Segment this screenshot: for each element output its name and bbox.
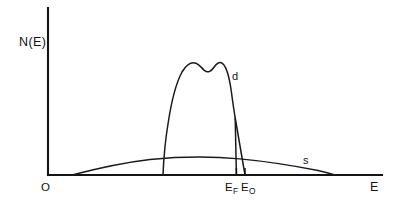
- plot-canvas: N(E) O E E F E O d s: [0, 0, 394, 206]
- s-band-curve: [72, 157, 335, 175]
- s-band-label: s: [303, 154, 309, 166]
- eo-label-subscript: O: [249, 186, 256, 196]
- density-of-states-figure: N(E) O E E F E O d s: [0, 0, 394, 206]
- d-band-label: d: [232, 70, 238, 82]
- origin-label: O: [41, 181, 50, 193]
- y-axis-label: N(E): [19, 35, 46, 49]
- x-axis-label: E: [370, 180, 379, 194]
- eo-label-base: E: [241, 181, 249, 193]
- eo-label: E O: [241, 181, 256, 196]
- ef-label-subscript: F: [233, 186, 238, 196]
- ef-label: E F: [225, 181, 238, 196]
- ef-label-base: E: [225, 181, 233, 193]
